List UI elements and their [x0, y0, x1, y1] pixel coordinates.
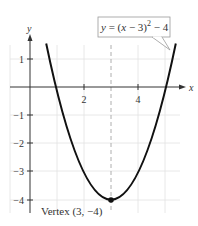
equation-callout: y = (x − 3)2 − 4 [98, 17, 170, 50]
vertex-label: Vertex (3, −4) [41, 205, 103, 218]
vertex-point [108, 197, 114, 203]
y-tick-label-m1: −1 [13, 110, 24, 121]
equation-label: y = (x − 3)2 − 4 [100, 19, 169, 34]
ticks [27, 59, 138, 200]
x-tick-label-2: 2 [82, 94, 87, 105]
x-axis-label: x [188, 82, 194, 93]
y-tick-label-1: 1 [19, 54, 24, 65]
y-axis-arrow-icon [28, 34, 33, 41]
y-tick-label-m3: −3 [13, 166, 24, 177]
y-axis-label: y [26, 23, 32, 34]
x-axis-arrow-icon [179, 85, 186, 90]
x-tick-label-4: 4 [136, 94, 141, 105]
y-tick-label-m4: −4 [13, 195, 24, 206]
y-tick-label-m2: −2 [13, 138, 24, 149]
parabola-chart: 2 4 1 −1 −2 −3 −4 x y Vertex (3, −4) y =… [0, 0, 198, 226]
